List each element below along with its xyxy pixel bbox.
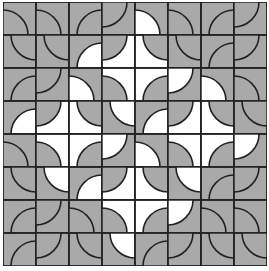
tile[interactable] [135,101,168,134]
tile[interactable] [69,200,102,233]
tile[interactable] [69,35,102,68]
tile[interactable] [135,2,168,35]
tile[interactable] [36,134,69,167]
tile[interactable] [69,68,102,101]
tile[interactable] [69,2,102,35]
tile[interactable] [3,200,36,233]
tile[interactable] [102,134,135,167]
tile-board [3,2,267,266]
tile[interactable] [234,233,267,266]
tile[interactable] [168,200,201,233]
tile[interactable] [168,35,201,68]
tile[interactable] [135,167,168,200]
tile[interactable] [201,35,234,68]
tile[interactable] [135,200,168,233]
tile[interactable] [3,35,36,68]
tile[interactable] [102,35,135,68]
tile[interactable] [102,200,135,233]
tile[interactable] [234,167,267,200]
tile[interactable] [201,200,234,233]
tile[interactable] [3,167,36,200]
tile[interactable] [102,68,135,101]
tile[interactable] [234,68,267,101]
tile[interactable] [36,2,69,35]
tile[interactable] [135,233,168,266]
tile[interactable] [234,2,267,35]
tile[interactable] [201,167,234,200]
tile[interactable] [168,68,201,101]
tile[interactable] [69,167,102,200]
tile[interactable] [3,101,36,134]
tile[interactable] [201,2,234,35]
tile-grid [3,2,267,266]
tile[interactable] [36,68,69,101]
tile[interactable] [201,134,234,167]
tile[interactable] [36,200,69,233]
tile[interactable] [3,68,36,101]
tile[interactable] [135,35,168,68]
tile[interactable] [234,101,267,134]
tile[interactable] [36,233,69,266]
tile[interactable] [69,101,102,134]
tile[interactable] [102,167,135,200]
tile[interactable] [102,2,135,35]
tile[interactable] [168,101,201,134]
tile[interactable] [3,233,36,266]
tile[interactable] [201,68,234,101]
tile[interactable] [234,35,267,68]
tile[interactable] [102,233,135,266]
tile[interactable] [69,233,102,266]
tile[interactable] [168,233,201,266]
tile[interactable] [201,101,234,134]
tile[interactable] [135,134,168,167]
tile[interactable] [3,2,36,35]
tile[interactable] [234,200,267,233]
tile[interactable] [69,134,102,167]
tile[interactable] [36,35,69,68]
tile[interactable] [3,134,36,167]
tile[interactable] [168,134,201,167]
tile[interactable] [135,68,168,101]
tile[interactable] [168,2,201,35]
tile[interactable] [168,167,201,200]
tile[interactable] [234,134,267,167]
tile[interactable] [36,167,69,200]
tile[interactable] [36,101,69,134]
tile[interactable] [102,101,135,134]
tile[interactable] [201,233,234,266]
